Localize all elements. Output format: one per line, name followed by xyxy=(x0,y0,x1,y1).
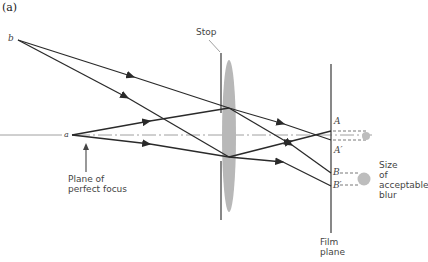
label-A: A xyxy=(334,116,341,127)
label-B: B xyxy=(333,167,340,178)
rays-from-b xyxy=(18,40,331,186)
panel-label: (a) xyxy=(2,2,17,13)
aperture-stop xyxy=(209,40,221,220)
point-b-label: b xyxy=(8,33,14,44)
rays-from-a xyxy=(72,108,331,157)
focus-label-2: perfect focus xyxy=(68,184,127,195)
stop-label: Stop xyxy=(196,27,216,38)
acceptable-blur-dot xyxy=(358,173,371,186)
focus-plane-arrow xyxy=(83,143,89,172)
small-blur-dot xyxy=(362,132,370,140)
film-label-2: plane xyxy=(320,247,345,258)
point-a-label: a xyxy=(64,129,69,140)
blur-label-4: blur xyxy=(379,190,397,201)
label-A-prime: A′ xyxy=(334,145,343,156)
lens xyxy=(222,60,236,212)
label-B-prime: B′ xyxy=(333,180,342,191)
